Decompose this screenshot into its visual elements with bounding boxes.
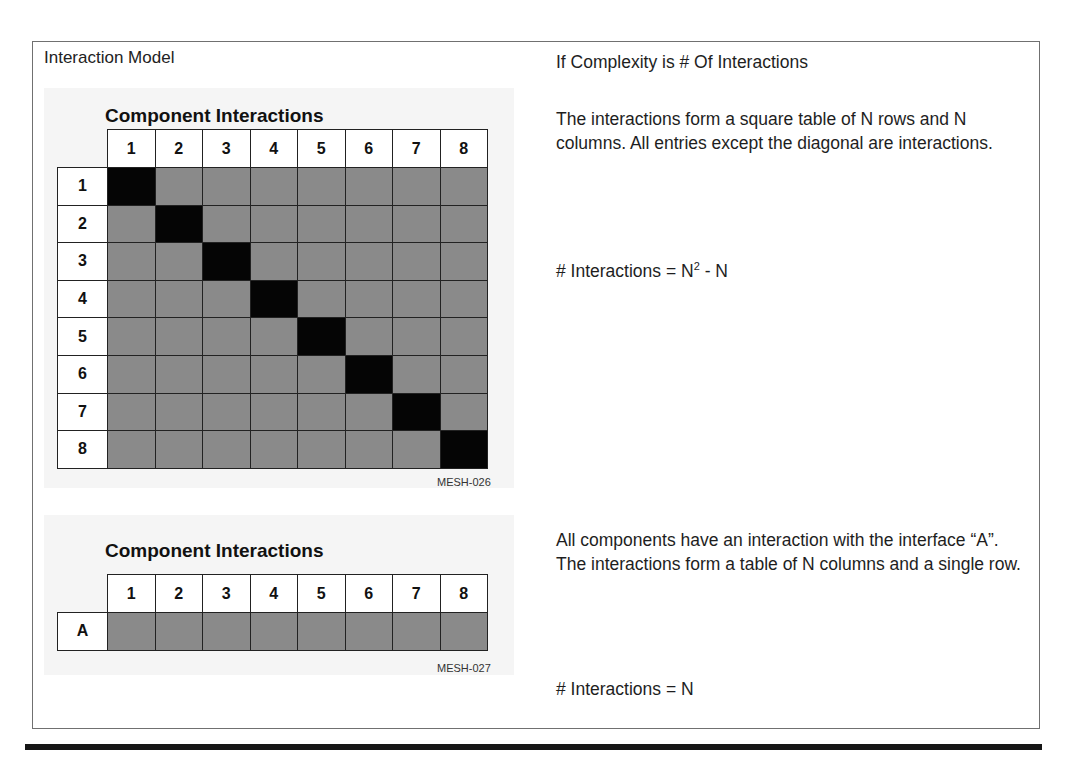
interaction-cell [108, 243, 156, 281]
interaction-cell [298, 393, 346, 431]
interaction-cell [108, 355, 156, 393]
left-panel-title: Interaction Model [44, 48, 174, 68]
row-header: 5 [58, 318, 108, 356]
interaction-cell [155, 243, 203, 281]
column-header: 7 [393, 575, 441, 613]
row-figure-title: Component Interactions [105, 540, 324, 562]
interaction-cell [203, 205, 251, 243]
right-panel-heading: If Complexity is # Of Interactions [556, 50, 1026, 74]
interaction-cell [250, 243, 298, 281]
matrix-row: 2 [58, 205, 488, 243]
interaction-cell [440, 280, 488, 318]
corner-blank [58, 130, 108, 168]
column-header: 8 [440, 575, 488, 613]
interaction-cell [393, 243, 441, 281]
column-header: 4 [250, 575, 298, 613]
row-formula: # Interactions = N [556, 677, 694, 701]
diagonal-cell [155, 205, 203, 243]
interaction-cell [203, 168, 251, 206]
interaction-cell [393, 431, 441, 469]
interaction-cell [393, 613, 441, 651]
matrix-row: A [58, 613, 488, 651]
matrix-row: 7 [58, 393, 488, 431]
column-header: 2 [155, 130, 203, 168]
interaction-cell [203, 318, 251, 356]
interaction-cell [203, 613, 251, 651]
interaction-cell [298, 168, 346, 206]
interaction-cell [155, 318, 203, 356]
matrix-row: 5 [58, 318, 488, 356]
row-header: A [58, 613, 108, 651]
interaction-cell [345, 168, 393, 206]
interaction-cell [298, 355, 346, 393]
square-formula-suffix: - N [700, 261, 728, 281]
interaction-cell [345, 431, 393, 469]
column-header: 3 [203, 575, 251, 613]
interaction-cell [250, 431, 298, 469]
interaction-cell [155, 393, 203, 431]
interaction-cell [108, 280, 156, 318]
row-header: 6 [58, 355, 108, 393]
column-header: 8 [440, 130, 488, 168]
column-header: 7 [393, 130, 441, 168]
interaction-cell [250, 393, 298, 431]
matrix-row: 8 [58, 431, 488, 469]
interaction-cell [250, 355, 298, 393]
interaction-cell [298, 431, 346, 469]
interaction-cell [345, 393, 393, 431]
interaction-cell [155, 280, 203, 318]
matrix-row: 4 [58, 280, 488, 318]
diagonal-cell [250, 280, 298, 318]
interaction-cell [250, 318, 298, 356]
diagonal-cell [440, 431, 488, 469]
column-header: 6 [345, 575, 393, 613]
interaction-cell [108, 393, 156, 431]
interaction-cell [345, 280, 393, 318]
interaction-cell [440, 243, 488, 281]
interaction-cell [298, 613, 346, 651]
matrix-row: 3 [58, 243, 488, 281]
interaction-cell [108, 613, 156, 651]
square-interaction-matrix: 1234567812345678 [57, 129, 488, 469]
interaction-cell [155, 613, 203, 651]
interaction-cell [393, 280, 441, 318]
interaction-cell [345, 205, 393, 243]
row-header: 2 [58, 205, 108, 243]
diagonal-cell [345, 355, 393, 393]
interaction-cell [298, 205, 346, 243]
interaction-cell [440, 318, 488, 356]
diagonal-cell [108, 168, 156, 206]
interaction-cell [440, 393, 488, 431]
column-header: 3 [203, 130, 251, 168]
interaction-cell [108, 318, 156, 356]
interaction-cell [250, 613, 298, 651]
diagonal-cell [393, 393, 441, 431]
column-header-row: 12345678 [58, 575, 488, 613]
square-formula: # Interactions = N2 - N [556, 254, 728, 283]
row-header: 8 [58, 431, 108, 469]
interaction-cell [345, 318, 393, 356]
interaction-cell [155, 355, 203, 393]
interaction-cell [250, 205, 298, 243]
interaction-cell [345, 613, 393, 651]
row-header: 3 [58, 243, 108, 281]
column-header: 4 [250, 130, 298, 168]
interaction-cell [393, 318, 441, 356]
row-interaction-matrix: 12345678A [57, 574, 488, 651]
interaction-cell [250, 168, 298, 206]
square-description: The interactions form a square table of … [556, 107, 1032, 155]
interaction-cell [155, 168, 203, 206]
interaction-cell [108, 205, 156, 243]
matrix-row: 1 [58, 168, 488, 206]
row-header: 4 [58, 280, 108, 318]
interaction-cell [298, 243, 346, 281]
column-header: 1 [108, 130, 156, 168]
row-header: 7 [58, 393, 108, 431]
interaction-cell [203, 355, 251, 393]
interaction-cell [393, 205, 441, 243]
matrix-row: 6 [58, 355, 488, 393]
row-header: 1 [58, 168, 108, 206]
interaction-cell [440, 205, 488, 243]
interaction-cell [440, 168, 488, 206]
interaction-cell [203, 280, 251, 318]
